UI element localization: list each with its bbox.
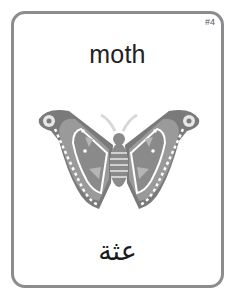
flashcard: #4 moth [11,11,224,288]
card-number: #4 [205,17,215,27]
arabic-word: عثة [14,235,221,266]
english-word: moth [14,40,221,69]
moth-icon [29,101,209,216]
